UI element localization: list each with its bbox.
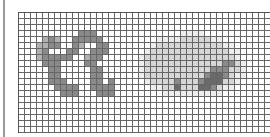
pixel-grid — [19, 13, 270, 133]
grid-cell — [265, 127, 270, 133]
left-divider — [3, 0, 5, 137]
pixel-grid-frame — [18, 12, 270, 133]
